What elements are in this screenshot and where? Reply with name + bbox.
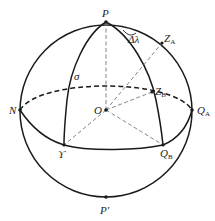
label-zb: ZB (155, 85, 166, 99)
label-delta-lambda: Δλ (127, 33, 139, 45)
label-za: ZA (164, 32, 175, 46)
label-sigma: σ (74, 70, 80, 82)
label-qa: QA (197, 104, 210, 118)
label-p-prime: P′ (99, 204, 110, 216)
point-p-prime (104, 195, 108, 199)
point-qa (190, 108, 194, 112)
point-vernal (62, 143, 65, 146)
label-p: P (101, 7, 109, 19)
label-n: N (8, 104, 17, 116)
equator-front-arc (20, 110, 192, 150)
point-p (104, 20, 108, 24)
label-vernal: ϒ (58, 148, 66, 160)
label-qb: QB (160, 147, 173, 161)
radius-o-qb (106, 110, 163, 145)
radius-o-za (106, 43, 162, 110)
meridian-vernal (64, 22, 106, 145)
point-zb (150, 90, 153, 93)
label-o: O (94, 104, 102, 116)
point-o (104, 108, 108, 112)
radius-o-zb (106, 92, 152, 110)
point-n (18, 108, 22, 112)
celestial-sphere-diagram: P P′ N O σ Δλ ϒ QA QB ZA ZB (0, 0, 215, 221)
